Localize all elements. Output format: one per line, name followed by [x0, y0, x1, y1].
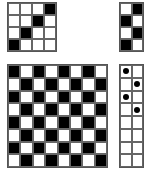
grid-cell: [58, 154, 70, 167]
grid-cell: [132, 78, 144, 91]
grid-cell: [82, 65, 94, 78]
grid-cell: [132, 39, 144, 51]
grid-cell: [8, 65, 20, 78]
grid-cell: [95, 103, 107, 116]
grid-cell: [20, 116, 32, 129]
grid-cell: [45, 65, 57, 78]
grid-cell: [82, 91, 94, 104]
grid-cell: [95, 65, 107, 78]
grid-cell: [8, 91, 20, 104]
grid-cell: [120, 15, 132, 27]
grid-8x8-checkerboard: [7, 64, 108, 168]
grid-cell: [44, 3, 56, 15]
grid-cell: [120, 65, 132, 78]
grid-cell: [20, 129, 32, 142]
grid-cell: [20, 91, 32, 104]
grid-cell: [120, 39, 132, 51]
grid-cell: [58, 129, 70, 142]
grid-cell: [132, 116, 144, 129]
grid-cell: [70, 91, 82, 104]
grid-cell: [132, 15, 144, 27]
grid-cell: [132, 91, 144, 104]
grid-cell: [20, 78, 32, 91]
dot-icon: [134, 107, 140, 113]
grid-cell: [120, 142, 132, 155]
grid-cell: [120, 78, 132, 91]
grid-cell: [8, 116, 20, 129]
grid-cell: [44, 15, 56, 27]
grid-cell: [82, 78, 94, 91]
grid-cell: [32, 27, 44, 39]
grid-cell: [44, 39, 56, 51]
grid-cell: [33, 154, 45, 167]
grid-cell: [8, 78, 20, 91]
grid-cell: [82, 154, 94, 167]
grid-cell: [8, 3, 20, 15]
grid-cell: [8, 27, 20, 39]
grid-cell: [20, 142, 32, 155]
grid-cell: [70, 78, 82, 91]
grid-cell: [20, 65, 32, 78]
grid-cell: [82, 142, 94, 155]
grid-8x2-dots: [119, 64, 144, 168]
grid-cell: [58, 103, 70, 116]
grid-cell: [82, 129, 94, 142]
grid-cell: [20, 103, 32, 116]
grid-cell: [70, 142, 82, 155]
diagram-canvas: [0, 0, 147, 177]
grid-cell: [45, 91, 57, 104]
grid-cell: [70, 116, 82, 129]
grid-cell: [132, 129, 144, 142]
grid-cell: [95, 91, 107, 104]
grid-cell: [70, 154, 82, 167]
grid-4x2-alternating: [119, 2, 144, 52]
grid-cell: [8, 129, 20, 142]
grid-cell: [120, 116, 132, 129]
dot-icon: [134, 81, 140, 87]
grid-cell: [132, 154, 144, 167]
grid-cell: [20, 15, 32, 27]
grid-cell: [8, 103, 20, 116]
grid-cell: [82, 116, 94, 129]
grid-cell: [45, 129, 57, 142]
grid-cell: [33, 142, 45, 155]
grid-cell: [58, 91, 70, 104]
grid-cell: [132, 65, 144, 78]
grid-cell: [33, 116, 45, 129]
grid-cell: [20, 27, 32, 39]
grid-cell: [8, 154, 20, 167]
grid-cell: [33, 129, 45, 142]
grid-cell: [58, 116, 70, 129]
grid-cell: [70, 129, 82, 142]
grid-cell: [95, 154, 107, 167]
grid-cell: [95, 78, 107, 91]
grid-cell: [32, 39, 44, 51]
grid-cell: [120, 3, 132, 15]
grid-cell: [45, 103, 57, 116]
grid-cell: [95, 129, 107, 142]
grid-cell: [132, 27, 144, 39]
grid-cell: [45, 142, 57, 155]
grid-cell: [95, 116, 107, 129]
grid-cell: [58, 65, 70, 78]
grid-cell: [8, 142, 20, 155]
grid-cell: [45, 154, 57, 167]
grid-cell: [120, 27, 132, 39]
grid-cell: [70, 65, 82, 78]
grid-cell: [120, 91, 132, 104]
grid-cell: [45, 78, 57, 91]
grid-cell: [120, 103, 132, 116]
grid-cell: [33, 78, 45, 91]
grid-cell: [20, 39, 32, 51]
grid-cell: [32, 15, 44, 27]
grid-cell: [33, 91, 45, 104]
grid-cell: [20, 154, 32, 167]
grid-cell: [33, 103, 45, 116]
grid-cell: [58, 142, 70, 155]
grid-cell: [44, 27, 56, 39]
grid-cell: [45, 116, 57, 129]
grid-cell: [120, 129, 132, 142]
grid-cell: [33, 65, 45, 78]
grid-cell: [32, 3, 44, 15]
dot-icon: [123, 68, 129, 74]
